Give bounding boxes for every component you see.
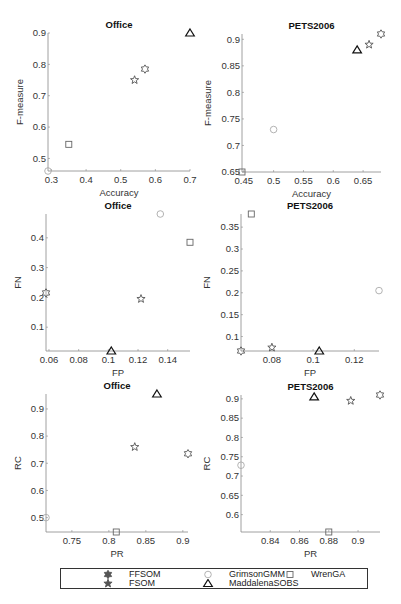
subplot-2: Office0.060.080.10.120.140.10.20.30.4FPF… [12, 200, 193, 378]
x-tick-label: 0.5 [114, 174, 127, 185]
x-tick-label: 0.6 [327, 175, 340, 186]
y-tick-label: 0.8 [226, 432, 239, 443]
data-point-grimsongmm [376, 287, 383, 294]
data-point-maddalenasobs [153, 390, 162, 397]
pentagram-glyph [104, 579, 112, 587]
data-point-ffsom [141, 65, 148, 73]
square-icon [283, 570, 297, 579]
x-tick-label: 0.08 [263, 354, 282, 365]
x-tick-label: 0.65 [354, 175, 373, 186]
y-axis-label: RC [12, 456, 23, 470]
data-point-grimsongmm [270, 126, 277, 133]
y-tick-label: 0.6 [31, 485, 44, 496]
subplot-4: Office0.750.80.850.90.50.60.70.80.9PRRC [12, 380, 192, 559]
x-tick-label: 0.8 [102, 535, 115, 546]
x-tick-label: 0.12 [345, 354, 364, 365]
hexagram-icon [101, 570, 115, 579]
y-tick-label: 0.7 [226, 470, 239, 481]
x-axis-label: FP [304, 367, 316, 378]
y-tick-label: 0.65 [221, 490, 240, 501]
y-tick-label: 0.2 [31, 292, 44, 303]
figure-canvas: Office0.30.40.50.60.70.50.60.70.80.9Accu… [0, 0, 401, 604]
x-tick-label: 0.5 [267, 175, 280, 186]
x-tick-label: 0.85 [137, 535, 156, 546]
y-tick-label: 0.7 [31, 458, 44, 469]
triangle-glyph [204, 580, 213, 587]
y-tick-label: 0.15 [221, 309, 240, 320]
data-point-fsom [268, 343, 276, 351]
legend-item-wrenga: WrenGA [283, 570, 345, 579]
data-point-maddalenasobs [186, 29, 195, 36]
x-axis-label: Accuracy [292, 188, 331, 199]
y-tick-label: 0.6 [33, 121, 46, 132]
legend-label: FSOM [129, 579, 155, 588]
data-point-wrenga [248, 211, 254, 217]
data-point-ffsom [184, 450, 191, 458]
square-glyph [287, 572, 293, 578]
subplot-0: Office0.30.40.50.60.70.50.60.70.80.9Accu… [14, 19, 197, 198]
y-tick-label: 0.35 [221, 221, 240, 232]
data-point-ffsom [376, 391, 383, 399]
circle-glyph [205, 571, 212, 578]
x-tick-label: 0.3 [45, 174, 58, 185]
legend-item-maddalenasobs: MaddalenaSOBS [201, 579, 299, 588]
data-point-fsom [137, 295, 145, 303]
data-point-fsom [131, 76, 139, 84]
y-tick-label: 0.2 [226, 287, 239, 298]
y-axis-label: F-measure [202, 80, 213, 126]
data-point-fsom [131, 443, 139, 451]
y-tick-label: 0.65 [222, 166, 241, 177]
legend-item-fsom: FSOM [101, 579, 155, 588]
subplot-title: Office [104, 380, 131, 391]
x-tick-label: 0.9 [351, 535, 364, 546]
data-point-maddalenasobs [353, 46, 362, 53]
x-tick-label: 0.86 [290, 535, 309, 546]
x-tick-label: 0.06 [40, 354, 59, 365]
x-tick-label: 0.9 [176, 535, 189, 546]
legend-label: MaddalenaSOBS [229, 579, 299, 588]
y-tick-label: 0.9 [226, 393, 239, 404]
subplot-3: PETS20060.080.10.120.10.150.20.250.30.35… [201, 200, 382, 378]
y-tick-label: 0.5 [33, 153, 46, 164]
x-tick-label: 0.14 [158, 354, 177, 365]
y-tick-label: 0.3 [226, 243, 239, 254]
y-tick-label: 0.8 [227, 87, 240, 98]
data-point-ffsom [377, 30, 384, 38]
x-axis-label: Accuracy [99, 187, 138, 198]
x-tick-label: 0.4 [79, 174, 92, 185]
subplot-5: PETS20060.840.860.880.90.60.650.70.750.8… [201, 381, 384, 559]
y-tick-label: 0.7 [227, 140, 240, 151]
x-tick-label: 0.08 [69, 354, 88, 365]
legend-label: WrenGA [311, 570, 345, 579]
data-point-fsom [347, 396, 355, 404]
x-axis-label: PR [304, 548, 317, 559]
y-tick-label: 0.5 [31, 512, 44, 523]
y-tick-label: 0.9 [33, 27, 46, 38]
x-tick-label: 0.6 [149, 174, 162, 185]
y-tick-label: 0.7 [33, 90, 46, 101]
y-tick-label: 0.3 [31, 262, 44, 273]
y-tick-label: 0.8 [31, 430, 44, 441]
data-point-maddalenasobs [315, 347, 324, 354]
subplot-title: PETS2006 [287, 200, 333, 211]
y-axis-label: FN [12, 276, 23, 289]
y-tick-label: 0.25 [221, 265, 240, 276]
data-point-wrenga [187, 239, 193, 245]
y-axis-label: FN [201, 276, 212, 289]
x-tick-label: 0.1 [306, 354, 319, 365]
x-tick-label: 0.75 [63, 535, 82, 546]
subplot-title: Office [105, 200, 132, 211]
x-axis-label: PR [110, 548, 123, 559]
y-tick-label: 0.4 [31, 232, 44, 243]
x-tick-label: 0.7 [183, 174, 196, 185]
subplot-title: PETS2006 [288, 381, 334, 392]
x-tick-label: 0.84 [261, 535, 280, 546]
y-tick-label: 0.6 [226, 509, 239, 520]
y-tick-label: 0.9 [227, 34, 240, 45]
x-tick-label: 0.88 [320, 535, 339, 546]
y-tick-label: 0.1 [31, 321, 44, 332]
y-tick-label: 0.75 [222, 113, 241, 124]
subplot-title: PETS2006 [289, 20, 335, 31]
y-tick-label: 0.85 [222, 60, 241, 71]
subplot-1: PETS20060.450.50.550.60.650.650.70.750.8… [202, 20, 385, 199]
